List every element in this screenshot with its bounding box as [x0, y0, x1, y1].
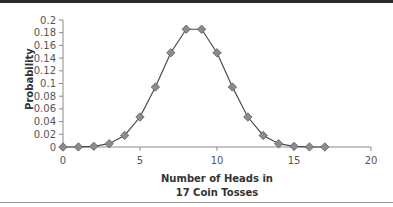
diamond-marker: [167, 49, 175, 57]
diamond-marker: [228, 83, 236, 91]
diamond-marker: [59, 143, 67, 151]
data-series: [59, 25, 329, 151]
x-axis: 05101520: [60, 147, 378, 166]
y-tick-label: 0.18: [34, 27, 56, 38]
diamond-marker: [182, 25, 190, 33]
x-tick-label: 5: [137, 155, 143, 166]
y-tick-label: 0.02: [34, 129, 56, 140]
y-axis: 00.020.040.060.080.10.120.140.160.180.2: [34, 15, 63, 153]
y-tick-label: 0.08: [34, 91, 56, 102]
y-tick-label: 0.16: [34, 40, 56, 51]
diamond-marker: [213, 49, 221, 57]
diamond-marker: [74, 143, 82, 151]
y-tick-label: 0.04: [34, 116, 56, 127]
y-tick-label: 0.06: [34, 103, 56, 114]
x-tick-label: 10: [211, 155, 224, 166]
x-axis-title-line-2: 17 Coin Tosses: [176, 187, 259, 198]
x-tick-label: 20: [365, 155, 378, 166]
line-chart: 00.020.040.060.080.10.120.140.160.180.2 …: [0, 0, 393, 207]
x-tick-label: 0: [60, 155, 66, 166]
diamond-marker: [305, 143, 313, 151]
diamond-marker: [90, 142, 98, 150]
y-tick-label: 0.1: [40, 78, 56, 89]
x-tick-label: 15: [288, 155, 301, 166]
diamond-marker: [197, 25, 205, 33]
x-axis-title-line-1: Number of Heads in: [161, 173, 273, 184]
diamond-marker: [321, 143, 329, 151]
y-tick-label: 0.12: [34, 65, 56, 76]
y-tick-label: 0.2: [40, 15, 56, 26]
y-axis-title: Probability: [24, 48, 35, 110]
diamond-marker: [151, 83, 159, 91]
diamond-marker: [290, 142, 298, 150]
bottom-border-rule: [0, 202, 393, 203]
y-tick-label: 0.14: [34, 53, 56, 64]
series-line: [63, 29, 325, 147]
y-tick-label: 0: [50, 142, 56, 153]
